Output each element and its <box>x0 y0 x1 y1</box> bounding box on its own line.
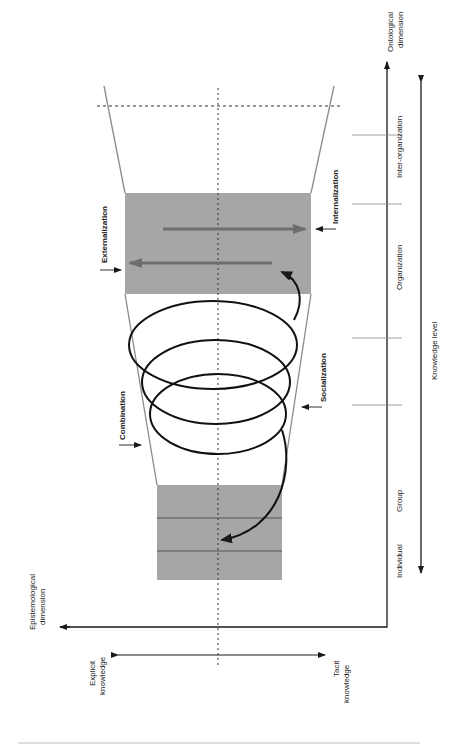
combination-label: Combination <box>118 391 127 440</box>
epistemological-label-2: dimension <box>38 589 47 625</box>
tacit-label-1: Tacit <box>332 660 341 677</box>
ontological-label-2: dimension <box>396 12 405 48</box>
explicit-label-2: knowledge <box>98 656 107 695</box>
level-individual: Individual <box>395 544 404 578</box>
individual-box <box>157 485 282 580</box>
tacit-label-2: knowledge <box>342 664 351 703</box>
internalization-label: Internalization <box>331 170 340 224</box>
epistemological-label-1: Epistemological <box>28 574 37 630</box>
knowledge-level-label: Knowledge level <box>430 322 439 380</box>
socialization-label: Socialization <box>319 353 328 402</box>
externalization-label: Externalization <box>100 206 109 263</box>
level-inter-organization: Inter-organization <box>395 116 404 178</box>
level-organization: Organization <box>395 245 404 290</box>
seci-diagram: Externalization Internalization Combinat… <box>0 0 458 750</box>
level-group: Group <box>395 489 404 512</box>
explicit-label-1: Explicit <box>88 660 97 686</box>
ontological-label-1: Ontological <box>386 12 395 52</box>
